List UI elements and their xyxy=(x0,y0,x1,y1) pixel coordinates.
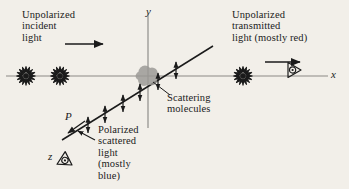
point-p-label: P xyxy=(65,110,72,122)
scattering-molecules-label: Scattering molecules xyxy=(167,92,211,115)
x-axis-label: x xyxy=(331,68,336,80)
y-axis-label: y xyxy=(146,5,151,17)
eye-icon-x-axis xyxy=(288,63,301,78)
polarization-vertical-double-arrow-icons xyxy=(88,62,176,133)
polarized-label-leader-arrow xyxy=(78,131,95,140)
transmitted-light-label: Unpolarized transmitted light (mostly re… xyxy=(232,9,307,43)
polarized-scattered-light-label: Polarized scattered light (mostly blue) xyxy=(98,124,139,181)
eye-icon-z-axis xyxy=(57,152,76,172)
unpolarized-light-starburst-icon-3 xyxy=(234,67,253,86)
unpolarized-light-starburst-icon-2 xyxy=(51,67,70,86)
z-axis-label: z xyxy=(48,150,52,162)
unpolarized-light-starburst-icon-1 xyxy=(17,67,36,86)
incident-light-label: Unpolarized incident light xyxy=(22,9,75,43)
scattering-diagram: Unpolarized incident light Unpolarized t… xyxy=(0,0,349,189)
